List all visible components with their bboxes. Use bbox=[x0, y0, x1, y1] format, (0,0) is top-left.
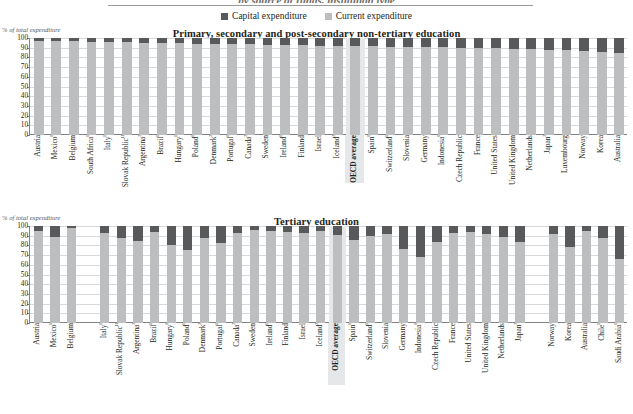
bar-segment-capital bbox=[416, 226, 425, 257]
bar-Slovenia bbox=[403, 38, 413, 135]
bar-segment-capital bbox=[366, 226, 375, 236]
bar-segment-current bbox=[117, 238, 126, 323]
y-tick-label: 40 bbox=[21, 92, 28, 100]
bar-segment-current bbox=[227, 44, 237, 135]
bar-Brazil¹ bbox=[150, 226, 159, 323]
bar-segment-current bbox=[333, 46, 343, 135]
bar-segment-capital bbox=[382, 226, 391, 234]
bar-segment-capital bbox=[333, 226, 342, 235]
legend-label-current: Current expenditure bbox=[336, 11, 412, 21]
bar-segment-current bbox=[233, 233, 242, 323]
bar-segment-current bbox=[250, 230, 259, 323]
x-axis-label: Sweden bbox=[262, 135, 269, 158]
figure-supertitle: by source of funds, institution type bbox=[0, 0, 633, 3]
figure-root: by source of funds, institution type Cap… bbox=[0, 0, 633, 414]
bar-France bbox=[474, 38, 484, 135]
y-tick-label: 100 bbox=[17, 34, 28, 42]
bar-Argentina² bbox=[139, 38, 149, 135]
bar-segment-current bbox=[615, 259, 624, 323]
bar-segment-capital bbox=[449, 226, 458, 233]
x-axis-label: Czech Republic bbox=[456, 135, 463, 182]
x-axis-label: Austria bbox=[33, 323, 40, 345]
bar-Spain¹ bbox=[368, 38, 378, 135]
bar-segment-current bbox=[449, 233, 458, 323]
y-tick-label: 70 bbox=[21, 251, 28, 259]
x-axis-label: Switzerland¹ bbox=[386, 135, 393, 172]
bar-segment-current bbox=[192, 44, 202, 135]
bar-Australia bbox=[614, 38, 624, 135]
y-tick-label: 10 bbox=[21, 309, 28, 317]
bar-segment-capital bbox=[399, 226, 408, 249]
y-tick-label: 60 bbox=[21, 261, 28, 269]
panel-primary-secondary: % of total expenditure Primary, secondar… bbox=[0, 26, 633, 206]
y-tick-label: 70 bbox=[21, 63, 28, 71]
x-axis-label: Czech Republic bbox=[432, 323, 439, 370]
bar-segment-capital bbox=[499, 226, 508, 237]
gridline bbox=[30, 48, 627, 49]
bar-United States bbox=[466, 226, 475, 323]
bar-segment-capital bbox=[200, 226, 209, 238]
bar-Czech Republic bbox=[456, 38, 466, 135]
bar-segment-current bbox=[509, 49, 519, 135]
bar-segment-capital bbox=[549, 226, 558, 234]
bar-segment-capital bbox=[515, 226, 524, 242]
legend-label-capital: Capital expenditure bbox=[232, 11, 307, 21]
bar-Slovak Republic¹² bbox=[122, 38, 132, 135]
bar-Germany bbox=[399, 226, 408, 323]
bar-segment-current bbox=[386, 47, 396, 135]
x-axis-label: Austria bbox=[34, 135, 41, 157]
bar-segment-current bbox=[416, 257, 425, 323]
x-axis-label: Italy¹ bbox=[104, 135, 111, 150]
x-axis-label: Germany bbox=[399, 323, 406, 351]
bar-Spain¹ bbox=[349, 226, 358, 323]
bar-Korea bbox=[597, 38, 607, 135]
x-axis-label: Chile¹ bbox=[598, 323, 605, 341]
x-axis-label: Israel bbox=[299, 323, 306, 339]
y-tick-label: 100 bbox=[17, 222, 28, 230]
bar-OECD average bbox=[350, 38, 360, 135]
bar-segment-capital bbox=[368, 38, 378, 46]
bar-United Kingdom bbox=[482, 226, 491, 323]
bar-segment-current bbox=[298, 45, 308, 135]
bar-United States bbox=[491, 38, 501, 135]
x-axis-label: Mexico¹ bbox=[50, 323, 57, 347]
x-axis-label: Finland bbox=[298, 135, 305, 158]
bar-segment-current bbox=[382, 234, 391, 323]
x-axis-label: Brazil¹ bbox=[150, 323, 157, 343]
x-axis-label: Australia bbox=[581, 323, 588, 350]
x-axis-label: Canada² bbox=[233, 323, 240, 347]
y-tick-label: 90 bbox=[21, 44, 28, 52]
gridline bbox=[30, 77, 627, 78]
bar-segment-current bbox=[474, 48, 484, 135]
bar-segment-capital bbox=[133, 226, 142, 241]
bar-Austria bbox=[34, 38, 44, 135]
bar-Hungary¹ bbox=[167, 226, 176, 323]
x-axis-label: OECD average bbox=[332, 323, 339, 371]
bar-segment-capital bbox=[233, 226, 242, 233]
x-axis-label: Belgium bbox=[67, 323, 74, 348]
bar-Poland¹ bbox=[183, 226, 192, 323]
x-axis-label: Italy¹ bbox=[100, 323, 107, 338]
plot-area-panel0: 0102030405060708090100 bbox=[29, 38, 627, 135]
x-axis-label: Portugal¹ bbox=[216, 323, 223, 350]
y-tick-label: 10 bbox=[21, 121, 28, 129]
bar-segment-current bbox=[421, 47, 431, 135]
bar-segment-current bbox=[403, 47, 413, 135]
bar-Portugal¹ bbox=[227, 38, 237, 135]
bar-segment-capital bbox=[349, 226, 358, 240]
bar-segment-current bbox=[499, 237, 508, 323]
bar-Slovak Republic¹² bbox=[117, 226, 126, 323]
legend-swatch-capital-icon bbox=[221, 13, 228, 20]
bar-Denmark² bbox=[210, 38, 220, 135]
bar-segment-capital bbox=[421, 38, 431, 47]
bar-segment-capital bbox=[100, 226, 109, 233]
bar-segment-current bbox=[315, 46, 325, 135]
gridline bbox=[30, 125, 627, 126]
bar-Austria bbox=[34, 226, 43, 323]
x-axis-label: Luxembourg bbox=[561, 135, 568, 173]
bar-Israel bbox=[315, 38, 325, 135]
bar-segment-current bbox=[263, 45, 273, 135]
bar-Finland bbox=[298, 38, 308, 135]
bar-segment-current bbox=[579, 51, 589, 135]
x-axis-label: Saudi Arabia¹ bbox=[615, 323, 622, 363]
